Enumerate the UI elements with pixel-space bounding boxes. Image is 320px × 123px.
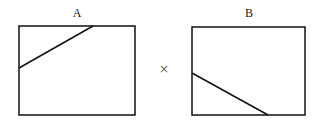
times-operator: ×	[159, 62, 169, 76]
panel-a-box	[19, 26, 135, 115]
panel-a-line	[19, 26, 93, 68]
panel-b-line	[192, 73, 268, 115]
panel-b-box	[192, 27, 305, 115]
